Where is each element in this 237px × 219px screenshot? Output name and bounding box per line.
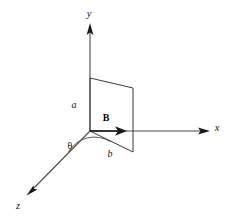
z-axis-label: z: [15, 200, 20, 211]
z-axis-arrowhead: [27, 186, 38, 196]
diagram-canvas: y x z a b B θ: [0, 0, 237, 219]
x-axis-label: x: [214, 122, 220, 133]
theta-arc-group: [69, 137, 111, 152]
side-b-label: b: [108, 148, 113, 159]
axes-group: [27, 23, 211, 196]
labels-group: y x z a b B θ: [15, 8, 220, 211]
b-field-label: B: [103, 112, 110, 123]
theta-label: θ: [68, 140, 73, 151]
side-a-label: a: [72, 99, 77, 110]
b-field-vector: [90, 126, 127, 136]
theta-arc: [69, 137, 111, 152]
loop-group: [90, 78, 133, 152]
loop-edge-top: [90, 78, 133, 88]
physics-figure: y x z a b B θ: [0, 0, 237, 219]
y-axis-label: y: [86, 8, 92, 19]
